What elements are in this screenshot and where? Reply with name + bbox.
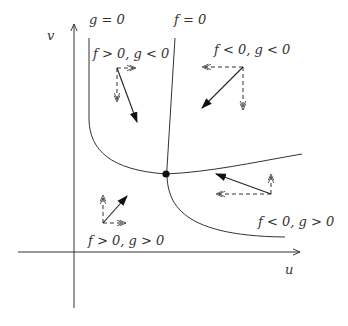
equilibrium-point: [162, 170, 169, 177]
resultant-arrow: [117, 68, 137, 122]
region-top-left: f > 0, g < 0: [92, 46, 169, 122]
region-top-right: f < 0, g < 0: [202, 42, 290, 110]
region-bottom-left: f > 0, g > 0: [87, 195, 164, 248]
region-label: f > 0, g > 0: [87, 233, 164, 248]
resultant-arrow: [202, 67, 243, 108]
resultant-arrow: [103, 196, 127, 223]
region-label: f < 0, g < 0: [213, 42, 290, 57]
v-axis-label: v: [47, 28, 55, 43]
axes: v u: [18, 24, 300, 308]
u-axis-label: u: [285, 262, 293, 277]
f-nullcline-curve: [167, 38, 285, 237]
g-nullcline-label: g = 0: [89, 12, 125, 27]
region-label: f > 0, g < 0: [92, 46, 169, 61]
resultant-arrow: [216, 174, 271, 194]
f-nullcline-label: f = 0: [173, 12, 206, 27]
region-label: f < 0, g > 0: [257, 214, 334, 229]
region-bottom-right: f < 0, g > 0: [216, 174, 334, 229]
phase-plane-diagram: v u g = 0 f = 0 f > 0, g < 0 f < 0, g < …: [0, 0, 348, 326]
